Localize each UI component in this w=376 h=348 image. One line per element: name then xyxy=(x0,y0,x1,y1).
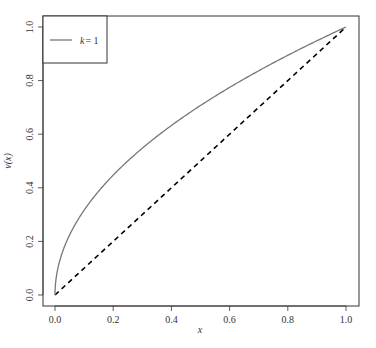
y-tick-label: 0.2 xyxy=(24,235,35,248)
chart: 0.00.20.40.60.81.0 x 0.00.20.40.60.81.0 … xyxy=(0,0,376,348)
x-tick-label: 0.6 xyxy=(223,314,236,325)
x-tick-label: 0.0 xyxy=(49,314,62,325)
legend-label: k= 1 xyxy=(80,35,99,46)
y-tick-label: 1.0 xyxy=(24,21,35,34)
x-tick-label: 0.8 xyxy=(282,314,295,325)
y-tick-label: 0.0 xyxy=(24,289,35,302)
x-axis-label: x xyxy=(197,324,203,335)
x-tick-label: 0.2 xyxy=(107,314,120,325)
legend: k= 1 xyxy=(43,16,107,63)
y-tick-label: 0.8 xyxy=(24,74,35,87)
y-tick-label: 0.4 xyxy=(24,182,35,195)
x-axis: 0.00.20.40.60.81.0 x xyxy=(49,306,353,335)
x-tick-label: 1.0 xyxy=(340,314,353,325)
x-tick-label: 0.4 xyxy=(165,314,178,325)
y-tick-label: 0.6 xyxy=(24,128,35,141)
y-axis: 0.00.20.40.60.81.0 v(x) xyxy=(2,21,43,302)
diagonal-dashed-line xyxy=(55,27,346,295)
y-axis-label: v(x) xyxy=(2,153,14,169)
